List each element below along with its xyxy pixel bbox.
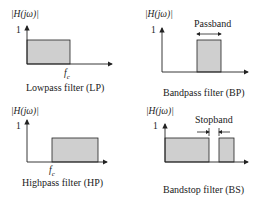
bandstop-plot xyxy=(165,124,248,162)
highpass-plot xyxy=(27,120,107,162)
lp-unity-tick: 1 xyxy=(16,25,21,35)
passband-label: Passband xyxy=(194,18,231,29)
bs-caption: Bandstop filter (BS) xyxy=(163,184,244,195)
lowpass-plot xyxy=(27,26,112,64)
hp-cutoff-label: fc xyxy=(49,165,55,178)
lp-caption: Lowpass filter (LP) xyxy=(26,82,104,93)
hp-caption: Highpass filter (HP) xyxy=(22,177,103,188)
bs-unity-tick: 1 xyxy=(153,121,158,131)
lp-cutoff-label: fc xyxy=(64,68,70,81)
hp-ylabel: |H(jω)| xyxy=(11,106,39,116)
filter-diagrams xyxy=(0,0,261,202)
bp-ylabel: |H(jω)| xyxy=(145,9,173,19)
stopband-label: Stopband xyxy=(195,114,233,125)
bs-ylabel: |H(jω)| xyxy=(146,106,174,116)
hp-unity-tick: 1 xyxy=(16,121,21,131)
bp-caption: Bandpass filter (BP) xyxy=(163,87,245,98)
lp-ylabel: |H(jω)| xyxy=(11,9,39,19)
bandpass-plot xyxy=(162,28,248,72)
bp-unity-tick: 1 xyxy=(151,25,156,35)
